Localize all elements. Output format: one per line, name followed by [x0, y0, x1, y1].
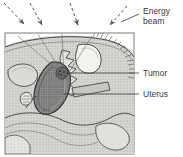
- beam-arrow-3: [70, 3, 78, 25]
- pubic-bone: [20, 92, 32, 105]
- beam-arrow-4: [110, 6, 127, 25]
- energy-beam-arrows: [4, 3, 127, 25]
- leader-energy-beam: [121, 14, 139, 22]
- illustration-frame: [5, 32, 135, 154]
- labels-group: Energy beam Tumor Uterus: [143, 6, 171, 99]
- beam-arrow-2: [30, 3, 42, 25]
- label-energy-beam-line1: Energy: [143, 6, 171, 16]
- label-uterus: Uterus: [143, 89, 168, 99]
- label-tumor: Tumor: [143, 68, 167, 78]
- bladder: [75, 44, 101, 73]
- pelvic-radiation-diagram: Energy beam Tumor Uterus: [0, 0, 183, 157]
- beam-arrow-1: [4, 3, 24, 24]
- figure-canvas: Energy beam Tumor Uterus: [0, 0, 183, 157]
- label-energy-beam-line2: beam: [143, 16, 164, 26]
